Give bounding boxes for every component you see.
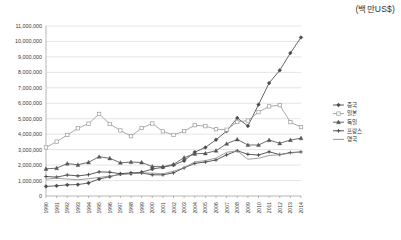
legend-label: 중국 bbox=[347, 102, 357, 109]
data-point bbox=[214, 128, 217, 131]
data-point bbox=[235, 137, 239, 141]
data-point bbox=[161, 130, 164, 133]
y-tick-label: 10,000,000 bbox=[15, 38, 42, 44]
data-point bbox=[204, 124, 207, 127]
legend-item-독일[interactable]: 독일 bbox=[333, 118, 357, 126]
data-point bbox=[65, 183, 69, 187]
x-tick-label: 2005 bbox=[202, 202, 208, 214]
y-tick-label: 6,000,000 bbox=[18, 100, 42, 106]
data-point bbox=[246, 152, 250, 156]
x-tick-label: 2008 bbox=[234, 202, 240, 214]
y-tick-label: 11,000,000 bbox=[15, 23, 42, 29]
x-tick-label: 1991 bbox=[54, 202, 60, 214]
line-chart: 01,000,0002,000,0003,000,0004,000,0005,0… bbox=[0, 0, 401, 240]
x-tick-label: 2014 bbox=[298, 202, 304, 214]
data-point bbox=[87, 122, 90, 125]
data-point bbox=[151, 122, 154, 125]
data-point bbox=[278, 103, 281, 106]
data-point bbox=[97, 155, 101, 159]
x-tick-label: 2011 bbox=[266, 202, 272, 213]
data-point bbox=[236, 120, 239, 123]
x-tick-label: 2010 bbox=[256, 202, 262, 214]
y-axis-labels: 01,000,0002,000,0003,000,0004,000,0005,0… bbox=[15, 23, 42, 199]
data-point bbox=[289, 120, 292, 123]
legend-marker bbox=[337, 129, 341, 133]
legend-item-중국[interactable]: 중국 bbox=[333, 102, 357, 109]
data-point bbox=[119, 129, 122, 132]
legend-item-영국[interactable]: 영국 bbox=[333, 135, 357, 143]
data-point bbox=[87, 173, 91, 177]
x-tick-label: 1995 bbox=[96, 202, 102, 214]
chart-container: (백만US$) 01,000,0002,000,0003,000,0004,00… bbox=[0, 0, 401, 240]
x-axis-labels: 1990199119921993199419951996199719981999… bbox=[43, 202, 304, 214]
legend-item-일본[interactable]: 일본 bbox=[333, 109, 357, 116]
legend-item-프랑스[interactable]: 프랑스 bbox=[333, 128, 362, 134]
x-tick-label: 2003 bbox=[181, 202, 187, 214]
data-point bbox=[225, 153, 229, 157]
legend-marker bbox=[337, 112, 340, 115]
data-point bbox=[267, 105, 270, 108]
legend-marker bbox=[337, 103, 341, 107]
data-point bbox=[87, 181, 91, 185]
data-point bbox=[246, 119, 249, 122]
y-tick-label: 0 bbox=[39, 193, 42, 199]
data-point bbox=[44, 146, 47, 149]
x-tick-label: 2002 bbox=[171, 202, 177, 214]
data-point bbox=[97, 170, 101, 174]
data-point bbox=[257, 110, 260, 113]
x-tick-label: 2012 bbox=[277, 202, 283, 214]
x-tick-label: 1996 bbox=[107, 202, 113, 214]
data-point bbox=[299, 125, 302, 128]
x-tick-label: 2013 bbox=[287, 202, 293, 214]
y-tick-label: 8,000,000 bbox=[18, 69, 42, 75]
data-point bbox=[267, 138, 271, 142]
data-point bbox=[299, 136, 303, 140]
data-point bbox=[55, 140, 58, 143]
x-tick-label: 1993 bbox=[75, 202, 81, 214]
data-point bbox=[225, 128, 228, 131]
x-tick-label: 1998 bbox=[128, 202, 134, 214]
data-point bbox=[66, 133, 69, 136]
y-tick-label: 1,000,000 bbox=[18, 178, 42, 184]
data-point bbox=[44, 185, 48, 189]
legend-label: 일본 bbox=[347, 109, 357, 116]
y-tick-label: 4,000,000 bbox=[18, 131, 42, 137]
data-point bbox=[55, 184, 59, 188]
y-tick-label: 7,000,000 bbox=[18, 85, 42, 91]
x-tick-label: 1997 bbox=[117, 202, 123, 214]
y-tick-label: 2,000,000 bbox=[18, 162, 42, 168]
data-point bbox=[140, 126, 143, 129]
data-point bbox=[108, 170, 112, 174]
y-tick-label: 5,000,000 bbox=[18, 116, 42, 122]
data-point bbox=[172, 133, 175, 136]
data-point bbox=[108, 175, 112, 179]
data-point bbox=[65, 173, 69, 177]
data-point bbox=[182, 129, 185, 132]
x-tick-label: 1999 bbox=[139, 202, 145, 214]
x-tick-label: 2000 bbox=[149, 202, 155, 214]
data-point bbox=[44, 175, 48, 179]
x-tick-label: 2006 bbox=[213, 202, 219, 214]
data-point bbox=[129, 134, 132, 137]
data-point bbox=[87, 160, 91, 164]
x-tick-label: 1990 bbox=[43, 202, 49, 214]
x-tick-label: 1994 bbox=[86, 202, 92, 214]
data-point bbox=[97, 112, 100, 115]
chart-legend: 중국일본독일프랑스영국 bbox=[333, 102, 362, 143]
x-tick-label: 2009 bbox=[245, 202, 251, 214]
y-tick-label: 9,000,000 bbox=[18, 54, 42, 60]
legend-label: 프랑스 bbox=[347, 128, 362, 134]
x-tick-label: 2004 bbox=[192, 202, 198, 214]
data-point bbox=[214, 149, 218, 153]
data-point bbox=[76, 127, 79, 130]
series-group bbox=[44, 36, 303, 189]
data-point bbox=[108, 122, 111, 125]
x-tick-label: 2001 bbox=[160, 202, 166, 214]
data-point bbox=[267, 150, 271, 154]
data-point bbox=[76, 174, 80, 178]
data-point bbox=[257, 153, 261, 157]
x-tick-label: 1992 bbox=[64, 202, 70, 214]
legend-label: 독일 bbox=[347, 118, 357, 126]
legend-label: 영국 bbox=[347, 135, 357, 143]
data-point bbox=[193, 124, 196, 127]
